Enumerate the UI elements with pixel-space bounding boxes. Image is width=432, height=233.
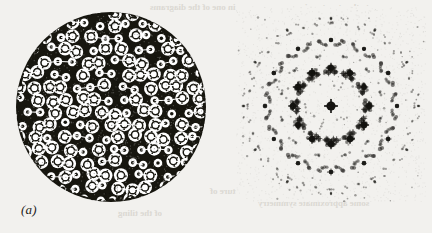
diffraction-canvas	[236, 6, 426, 202]
tiling-canvas	[16, 12, 206, 202]
quasicrystal-tiling-disk	[16, 12, 206, 202]
figure-root: in one of the diagramsto the structure i…	[0, 0, 432, 233]
panel-b: (b)	[216, 0, 432, 233]
panel-a: (a)	[0, 0, 216, 233]
diffraction-pattern	[236, 6, 426, 202]
panel-label-a: (a)	[21, 202, 37, 218]
